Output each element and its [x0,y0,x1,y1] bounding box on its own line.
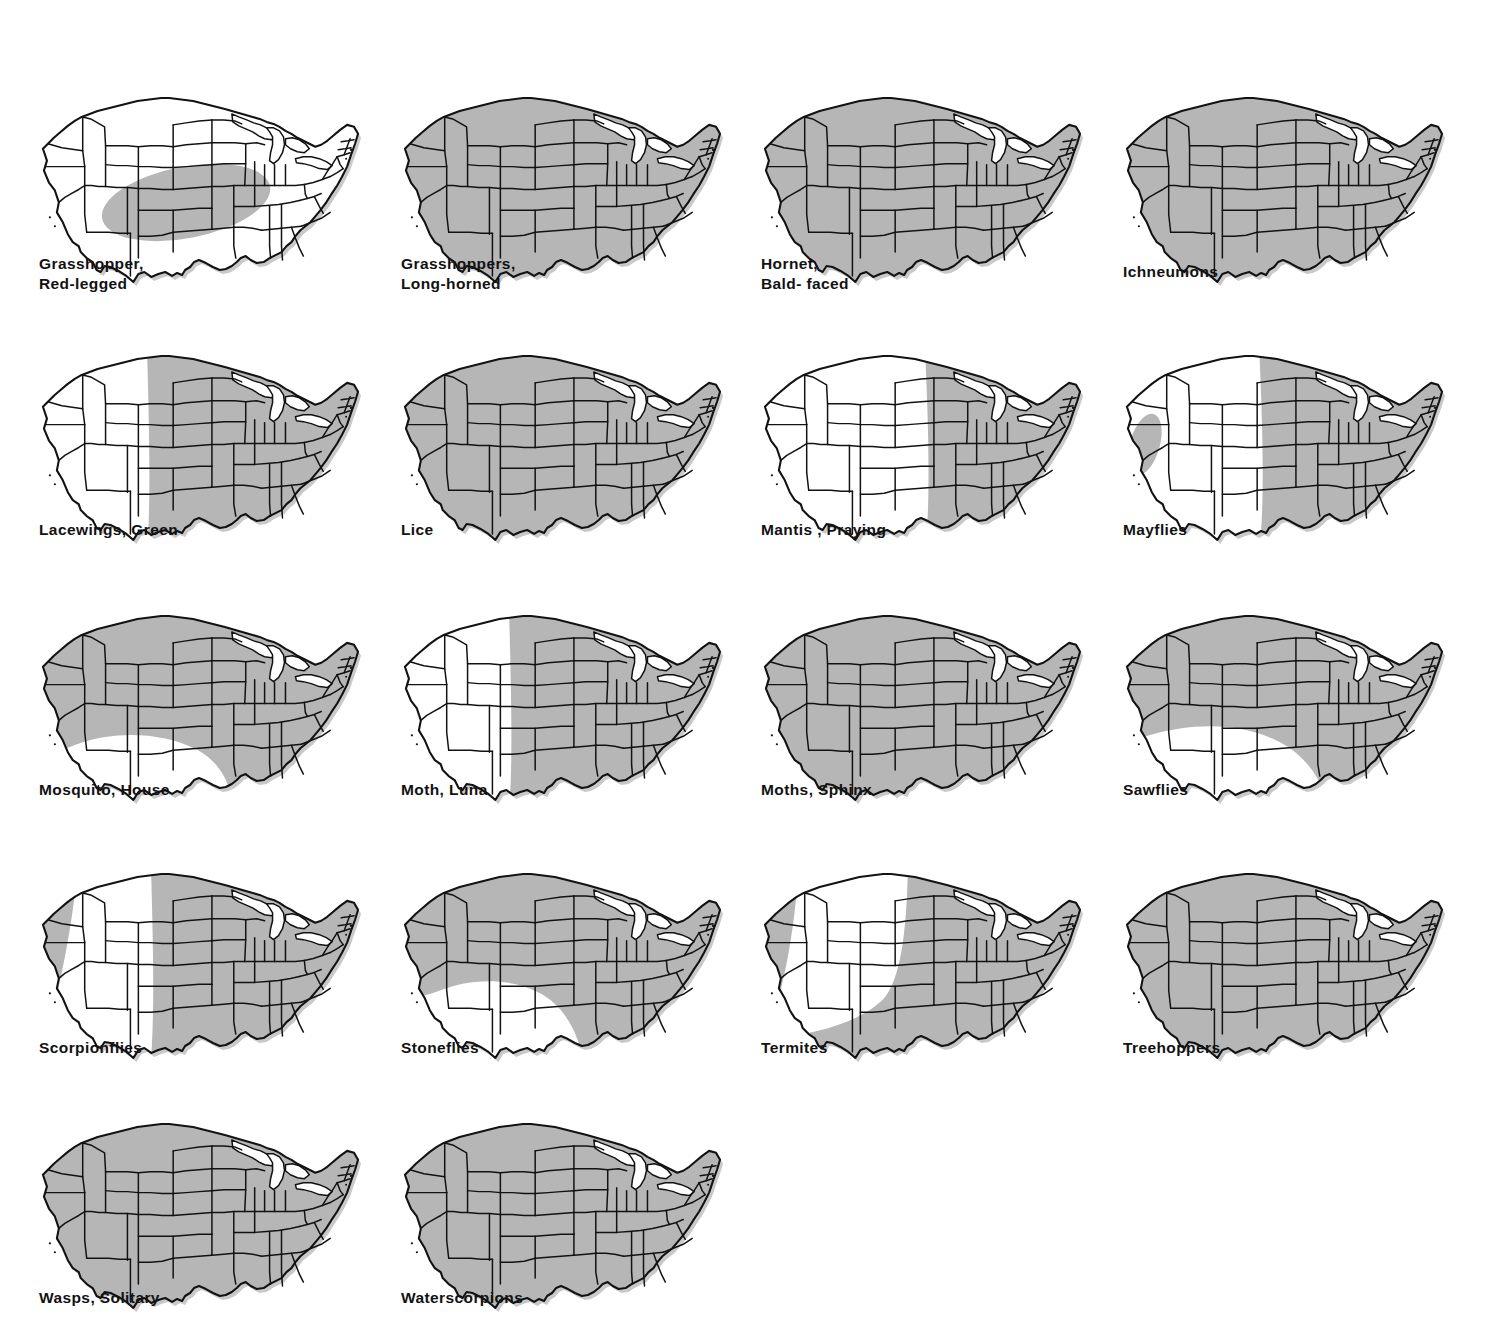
map-label-stoneflies: Stoneflies [401,1038,479,1058]
map-figure-sawflies [1119,602,1449,807]
map-label-moth-luna: Moth, Luna [401,780,488,800]
map-label-grasshoppers-long-horned: Grasshoppers, Long-horned [401,254,516,294]
map-label-mayflies: Mayflies [1123,520,1187,540]
map-figure-mosquito-house [35,602,365,807]
us-range-map [397,342,727,547]
map-cell-treehoppers: Treehoppers [1119,860,1479,1110]
map-cell-stoneflies: Stoneflies [397,860,757,1110]
map-label-grasshopper-red-legged: Grasshopper, Red-legged [39,254,144,294]
distribution-range [405,356,720,540]
map-label-waterscorpions: Waterscorpions [401,1288,523,1308]
map-figure-mayflies [1119,342,1449,547]
map-cell-mayflies: Mayflies [1119,342,1479,592]
map-figure-moth-luna [397,602,727,807]
map-cell-grasshopper-red-legged: Grasshopper, Red-legged [35,84,395,334]
map-figure-ichneumons [1119,84,1449,289]
us-range-map [1119,602,1449,807]
map-figure-wasps-solitary [35,1110,365,1315]
map-cell-termites: Termites [757,860,1117,1110]
map-cell-ichneumons: Ichneumons [1119,84,1479,334]
us-range-map [35,342,365,547]
map-cell-hornet-bald-faced: Hornet, Bald- faced [757,84,1117,334]
map-label-sawflies: Sawflies [1123,780,1188,800]
map-cell-scorpionflies: Scorpionflies [35,860,395,1110]
map-cell-grasshoppers-long-horned: Grasshoppers, Long-horned [397,84,757,334]
map-cell-sawflies: Sawflies [1119,602,1479,852]
map-label-treehoppers: Treehoppers [1123,1038,1220,1058]
us-range-map [1119,84,1449,289]
us-range-map [35,860,365,1065]
us-range-map [397,1110,727,1315]
map-figure-treehoppers [1119,860,1449,1065]
distribution-range [765,616,1080,800]
map-label-lice: Lice [401,520,434,540]
map-cell-moths-sphinx: Moths, Sphinx [757,602,1117,852]
map-figure-scorpionflies [35,860,365,1065]
map-cell-lacewings-green: Lacewings, Green [35,342,395,592]
map-label-scorpionflies: Scorpionflies [39,1038,142,1058]
map-label-wasps-solitary: Wasps, Solitary [39,1288,160,1308]
map-figure-stoneflies [397,860,727,1065]
map-cell-moth-luna: Moth, Luna [397,602,757,852]
map-cell-lice: Lice [397,342,757,592]
map-label-termites: Termites [761,1038,828,1058]
map-cell-mosquito-house: Mosquito, House [35,602,395,852]
map-figure-moths-sphinx [757,602,1087,807]
map-cell-wasps-solitary: Wasps, Solitary [35,1110,395,1342]
map-label-hornet-bald-faced: Hornet, Bald- faced [761,254,849,294]
map-label-mantis-praying: Mantis , Praying [761,520,886,540]
us-range-map [397,602,727,807]
distribution-range [1127,98,1442,282]
us-range-map [35,602,365,807]
us-range-map [757,860,1087,1065]
us-range-map [757,342,1087,547]
us-range-map [397,860,727,1065]
distribution-range [405,1124,720,1308]
map-figure-mantis-praying [757,342,1087,547]
map-cell-waterscorpions: Waterscorpions [397,1110,757,1342]
map-figure-waterscorpions [397,1110,727,1315]
map-label-mosquito-house: Mosquito, House [39,780,170,800]
map-figure-lice [397,342,727,547]
map-figure-termites [757,860,1087,1065]
map-label-lacewings-green: Lacewings, Green [39,520,178,540]
map-grid: Grasshopper, Red-leggedGrasshoppers, Lon… [0,0,1504,1342]
map-label-moths-sphinx: Moths, Sphinx [761,780,872,800]
distribution-range [43,1124,358,1308]
us-range-map [1119,860,1449,1065]
map-cell-mantis-praying: Mantis , Praying [757,342,1117,592]
us-range-map [1119,342,1449,547]
map-label-ichneumons: Ichneumons [1123,262,1218,282]
us-range-map [35,1110,365,1315]
us-range-map [757,602,1087,807]
distribution-range [1127,874,1442,1058]
map-figure-lacewings-green [35,342,365,547]
